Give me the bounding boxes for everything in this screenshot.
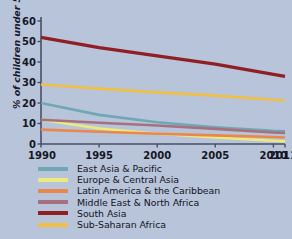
legend-swatch-latin-america-the-caribbean (38, 189, 68, 193)
series-line-south-asia (41, 37, 285, 76)
legend-item-south-asia[interactable]: South Asia (38, 208, 288, 219)
y-axis-tick-label: 30 (22, 77, 36, 88)
legend-label-middle-east-north-africa: Middle East & North Africa (77, 197, 199, 208)
y-axis-tick-label: 10 (22, 118, 36, 129)
chart-container: % of children under 5 010203040506019901… (0, 0, 292, 239)
x-axis-tick-label: 2000 (143, 150, 171, 160)
x-axis-tick-label: 2005 (201, 150, 229, 160)
legend-swatch-europe-central-asia (38, 178, 68, 182)
legend-item-middle-east-north-africa[interactable]: Middle East & North Africa (38, 197, 288, 208)
legend-swatch-east-asia-pacific (38, 167, 68, 171)
x-axis-tick-label: 1990 (28, 150, 56, 160)
line-chart-svg: 0102030405060199019952000200520102011 (0, 0, 292, 160)
plot-area: % of children under 5 010203040506019901… (0, 0, 292, 160)
y-axis-tick-label: 40 (22, 57, 36, 68)
legend-swatch-sub-saharan-africa (38, 223, 68, 227)
chart-legend: East Asia & PacificEurope & Central Asia… (38, 163, 288, 230)
series-line-sub-saharan-africa (41, 85, 285, 101)
y-axis-tick-label: 60 (22, 16, 36, 27)
legend-item-east-asia-pacific[interactable]: East Asia & Pacific (38, 163, 288, 174)
legend-label-sub-saharan-africa: Sub-Saharan Africa (77, 219, 166, 230)
legend-item-latin-america-the-caribbean[interactable]: Latin America & the Caribbean (38, 185, 288, 196)
legend-item-sub-saharan-africa[interactable]: Sub-Saharan Africa (38, 219, 288, 230)
legend-item-europe-central-asia[interactable]: Europe & Central Asia (38, 174, 288, 185)
y-axis-title: % of children under 5 (11, 0, 22, 113)
legend-swatch-middle-east-north-africa (38, 200, 68, 204)
legend-swatch-south-asia (38, 211, 68, 215)
legend-label-east-asia-pacific: East Asia & Pacific (77, 163, 162, 174)
legend-label-south-asia: South Asia (77, 208, 126, 219)
y-axis-tick-label: 20 (22, 98, 36, 109)
y-axis-tick-label: 50 (22, 36, 36, 47)
legend-label-europe-central-asia: Europe & Central Asia (77, 174, 179, 185)
y-axis-tick-label: 0 (29, 139, 36, 150)
x-axis-tick-label: 2011 (269, 150, 292, 160)
legend-label-latin-america-the-caribbean: Latin America & the Caribbean (77, 185, 220, 196)
x-axis-tick-label: 1995 (85, 150, 113, 160)
